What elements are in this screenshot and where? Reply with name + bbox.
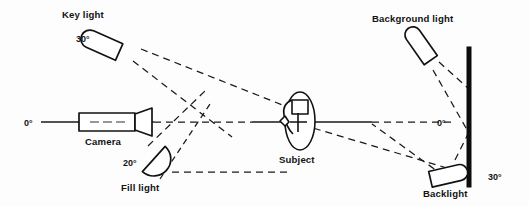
camera-angle-label: 0° xyxy=(24,118,33,128)
subject-figure xyxy=(280,92,315,150)
backlight-fixture xyxy=(429,163,470,187)
backlight-ray-to-subject xyxy=(313,128,447,168)
backlight-label: Backlight xyxy=(423,188,468,199)
lighting-diagram-canvas: Key light 30° 0° Camera 20° Fill light S… xyxy=(0,0,529,206)
fill-light-fixture xyxy=(142,146,177,183)
background-axis-angle-label: 0° xyxy=(437,118,446,128)
backlight-body xyxy=(429,163,470,187)
fill-light-label: Fill light xyxy=(121,182,160,193)
backlight-angle-label: 30° xyxy=(488,172,502,182)
key-light-ray-upper xyxy=(141,49,290,108)
background-light-fixture xyxy=(402,24,437,65)
camera-lens xyxy=(135,108,152,136)
key-light-rays xyxy=(133,49,290,137)
subject-shoulder-plate xyxy=(292,100,308,114)
background-light-body xyxy=(402,24,437,65)
background-light-label: Background light xyxy=(372,13,454,24)
camera-fixture xyxy=(79,108,152,136)
fill-light-angle-label: 20° xyxy=(123,158,137,168)
camera-label: Camera xyxy=(85,136,122,147)
background-light-ray-upper xyxy=(439,62,470,90)
subject-label: Subject xyxy=(279,154,315,165)
fill-light-body xyxy=(142,146,177,183)
backlight-ray-upper xyxy=(372,124,444,176)
key-light-label: Key light xyxy=(62,9,105,20)
background-wall-bar xyxy=(467,47,471,187)
lighting-diagram: Key light 30° 0° Camera 20° Fill light S… xyxy=(0,0,529,206)
fill-light-ray-upper xyxy=(148,91,205,146)
key-light-angle-label: 30° xyxy=(76,34,90,44)
